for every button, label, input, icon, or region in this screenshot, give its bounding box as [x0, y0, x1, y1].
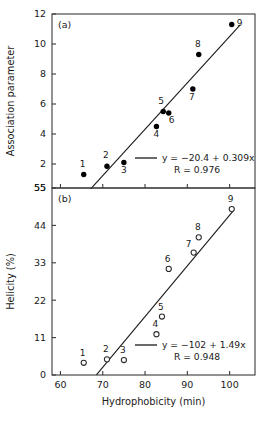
y-tick-label: 6 — [40, 98, 46, 109]
data-point-label: 8 — [195, 39, 201, 49]
data-point — [196, 235, 201, 240]
figure-root: 2468101255(a)123456789Association parame… — [0, 0, 270, 421]
data-point — [229, 22, 234, 27]
legend: y = −102 + 1.49xR = 0.948 — [135, 339, 246, 362]
y-tick-label: 0 — [40, 369, 46, 380]
x-tick-label: 100 — [221, 379, 239, 390]
legend-equation: y = −20.4 + 0.309x — [162, 152, 255, 163]
panel-label: (a) — [58, 19, 71, 30]
data-point — [191, 250, 196, 255]
data-point-label: 5 — [158, 302, 164, 312]
y-tick-label: 10 — [34, 38, 46, 49]
y-tick-label: 4 — [40, 128, 46, 139]
legend-correlation: R = 0.948 — [174, 351, 220, 362]
data-point-label: 9 — [237, 18, 243, 28]
data-point — [121, 357, 126, 362]
data-point — [154, 332, 159, 337]
data-point — [229, 206, 234, 211]
y-tick-label: 2 — [40, 158, 46, 169]
data-point-label: 3 — [121, 165, 127, 175]
data-point-label: 7 — [186, 239, 192, 249]
data-point — [196, 52, 201, 57]
data-point — [166, 266, 171, 271]
legend-equation: y = −102 + 1.49x — [162, 339, 246, 350]
data-point — [81, 172, 86, 177]
data-point — [81, 360, 86, 365]
x-axis-title: Hydrophobicity (min) — [102, 396, 206, 407]
data-point-label: 2 — [103, 150, 109, 160]
y-tick-label: 22 — [34, 295, 46, 306]
x-tick-label: 90 — [181, 379, 193, 390]
data-point-label: 7 — [189, 92, 195, 102]
data-point — [159, 314, 164, 319]
data-point — [161, 109, 166, 114]
data-point — [104, 164, 109, 169]
data-point-label: 4 — [154, 129, 160, 139]
y-tick-label: 44 — [34, 220, 46, 231]
y-tick-label: 8 — [40, 68, 46, 79]
y-tick-label: 55 — [34, 182, 46, 193]
panel-label: (b) — [58, 193, 71, 204]
data-point-label: 9 — [228, 194, 234, 204]
legend: y = −20.4 + 0.309xR = 0.976 — [135, 152, 255, 175]
legend-correlation: R = 0.976 — [174, 164, 220, 175]
x-tick-label: 80 — [139, 379, 151, 390]
data-point — [104, 357, 109, 362]
y-axis-title: Helicity (%) — [5, 253, 16, 310]
data-point-label: 1 — [80, 159, 86, 169]
panel-a: 2468101255(a)123456789Association parame… — [5, 8, 255, 193]
panel-b: 0112233445560708090100(b)123456789Helici… — [5, 182, 255, 407]
data-point-label: 5 — [158, 96, 164, 106]
y-tick-label: 33 — [34, 257, 46, 268]
y-tick-label: 12 — [34, 8, 46, 19]
y-axis-title: Association parameter — [5, 45, 16, 157]
data-point-label: 6 — [169, 115, 175, 125]
x-tick-label: 60 — [54, 379, 66, 390]
x-tick-label: 70 — [97, 379, 109, 390]
data-point-label: 4 — [153, 319, 159, 329]
data-point-label: 6 — [165, 254, 171, 264]
data-point-label: 3 — [120, 345, 126, 355]
data-point-label: 8 — [195, 222, 201, 232]
data-point-label: 1 — [80, 348, 86, 358]
data-point-label: 2 — [103, 344, 109, 354]
y-tick-label: 11 — [34, 332, 46, 343]
data-point — [190, 86, 195, 91]
